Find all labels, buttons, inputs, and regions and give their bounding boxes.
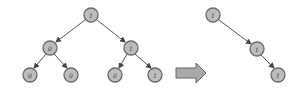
edge-right-leftleaf [119, 54, 127, 68]
node-root: 1 [84, 8, 98, 22]
edge-left-leftleaf [34, 54, 46, 68]
node-c: 1 [271, 68, 285, 82]
edge-root-left [56, 20, 85, 42]
node-a: 1 [206, 8, 220, 22]
svg-text:1: 1 [153, 72, 157, 79]
svg-text:0: 0 [28, 72, 32, 79]
node-right: 1 [124, 41, 138, 55]
tree-diagram: 1 0 1 0 0 0 1 1 1 1 [0, 0, 301, 92]
svg-text:1: 1 [255, 46, 259, 53]
node-b: 1 [250, 42, 264, 56]
svg-text:1: 1 [89, 12, 93, 19]
node-left-right: 0 [64, 68, 78, 82]
edge-right-rightleaf [135, 54, 151, 68]
svg-text:1: 1 [129, 45, 133, 52]
transform-arrow-icon [176, 63, 206, 83]
svg-text:0: 0 [69, 72, 73, 79]
edge-a-b [219, 20, 251, 44]
node-right-right: 1 [148, 68, 162, 82]
left-tree-nodes: 1 0 1 0 0 0 1 [23, 8, 162, 82]
node-left: 0 [43, 41, 57, 55]
edge-left-rightleaf [54, 54, 67, 68]
edge-b-c [261, 55, 274, 68]
right-tree-nodes: 1 1 1 [206, 8, 285, 82]
svg-text:0: 0 [48, 45, 52, 52]
svg-text:1: 1 [211, 12, 215, 19]
svg-text:0: 0 [113, 72, 117, 79]
node-right-left: 0 [108, 68, 122, 82]
svg-text:1: 1 [276, 72, 280, 79]
node-left-left: 0 [23, 68, 37, 82]
edge-root-right [97, 20, 125, 42]
right-tree-edges [219, 20, 274, 68]
